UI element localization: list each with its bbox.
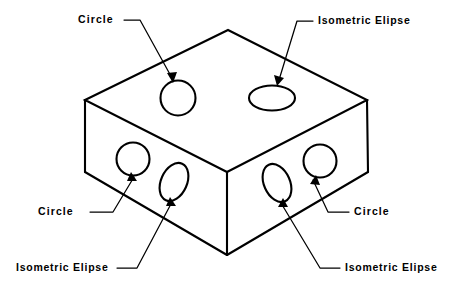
left-face-circle-hole bbox=[117, 143, 150, 176]
callout-top-right-isometric-ellipse: Isometric Elipse bbox=[318, 15, 411, 26]
callout-top-left-circle: Circle bbox=[78, 14, 114, 25]
top-face-ellipse-hole bbox=[249, 86, 295, 111]
callout-mid-right-circle: Circle bbox=[354, 206, 390, 217]
right-vertical-edge bbox=[367, 100, 368, 172]
diagram-canvas bbox=[0, 0, 470, 292]
right-face-circle-hole bbox=[304, 145, 337, 178]
isometric-diagram: Circle Isometric Elipse Circle Circle Is… bbox=[0, 0, 470, 292]
callout-mid-left-circle: Circle bbox=[38, 206, 74, 217]
callout-bottom-left-isometric-ellipse: Isometric Elipse bbox=[16, 262, 109, 273]
top-face-circle-hole bbox=[161, 81, 196, 116]
callout-bottom-right-isometric-ellipse: Isometric Elipse bbox=[345, 262, 438, 273]
